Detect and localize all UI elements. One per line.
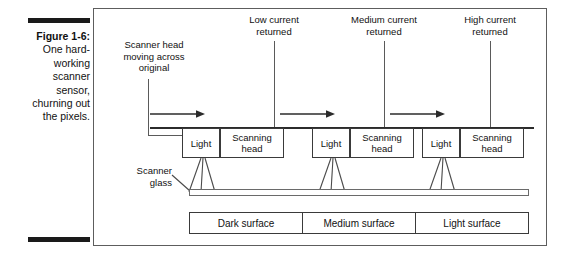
caption-line-4: sensor, (6, 84, 90, 97)
figure-caption: Figure 1-6: One hard- working scanner se… (6, 30, 90, 124)
motion-arrow-2 (280, 108, 338, 120)
figure-screenshot: Figure 1-6: One hard- working scanner se… (0, 0, 567, 257)
scanning-head-box-3: Scanning head (460, 128, 524, 158)
caption-line-5: churning out (6, 97, 90, 110)
annotation-scanner-glass: Scanner glass (104, 165, 172, 188)
caption-line-1: One hard- (6, 43, 90, 56)
surface-box-dark: Dark surface (189, 212, 303, 234)
caption-column: Figure 1-6: One hard- working scanner se… (6, 8, 86, 249)
leader-line-scanner-head-horizontal (148, 135, 182, 136)
callout-low-current: Low current returned (226, 14, 322, 37)
leader-line-scanner-head-vertical (148, 79, 149, 135)
light-box-3: Light (422, 128, 460, 158)
callout-high-current: High current returned (442, 14, 538, 37)
light-box-2: Light (312, 128, 350, 158)
caption-line-6: the pixels. (6, 110, 90, 123)
scanner-glass-bar (189, 189, 529, 196)
scanning-head-box-2: Scanning head (350, 128, 414, 158)
leader-line-low-current (274, 41, 275, 127)
caption-rule-top (28, 18, 90, 23)
motion-arrow-3 (390, 108, 448, 120)
leader-line-medium-current (384, 41, 385, 127)
caption-rule-bottom (28, 237, 90, 242)
scanning-head-box-1: Scanning head (220, 128, 284, 158)
motion-arrow-1 (150, 108, 208, 120)
surface-box-medium: Medium surface (302, 212, 416, 234)
callout-medium-current: Medium current returned (330, 14, 438, 37)
figure-number-label: Figure 1-6: (6, 30, 90, 43)
light-box-1: Light (182, 128, 220, 158)
caption-line-3: scanner (6, 70, 90, 83)
leader-line-high-current (490, 41, 491, 127)
annotation-scanner-head: Scanner head moving across original (102, 39, 206, 74)
caption-line-2: working (6, 57, 90, 70)
figure-frame: Low current returned Medium current retu… (93, 8, 547, 246)
surface-box-light: Light surface (415, 212, 529, 234)
